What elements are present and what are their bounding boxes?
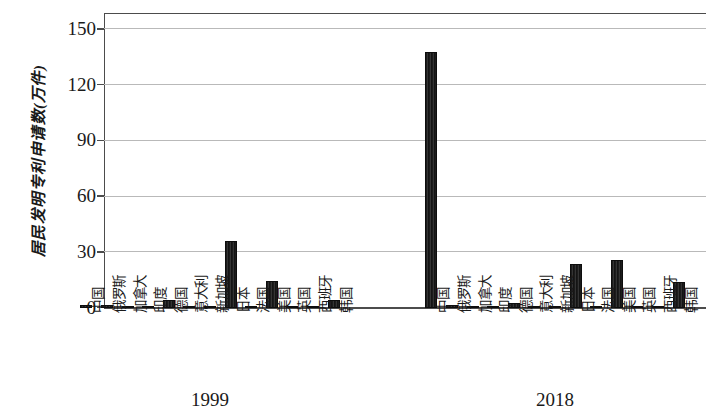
x-axis-category-label: 法国 — [602, 217, 616, 313]
x-axis-category-label: 加拿大 — [134, 217, 148, 313]
bar-chart: 居民发明专利申请数(万件) 0306090120150 中国俄罗斯加拿大印度德国… — [0, 0, 714, 416]
x-axis-category-label: 俄罗斯 — [458, 217, 472, 313]
x-axis-group-label: 2018 — [495, 390, 615, 409]
x-axis-category-label: 中国 — [437, 217, 451, 313]
x-axis-category-label: 西班牙 — [664, 217, 678, 313]
x-axis-category-label: 日本 — [237, 217, 251, 313]
x-axis-category-label: 美国 — [623, 217, 637, 313]
x-axis-category-label: 印度 — [154, 217, 168, 313]
x-axis-category-label: 韩国 — [340, 217, 354, 313]
x-axis-category-label: 日本 — [582, 217, 596, 313]
bars-layer — [0, 0, 714, 416]
x-axis-category-label: 美国 — [278, 217, 292, 313]
x-axis-category-label: 英国 — [298, 217, 312, 313]
x-axis-category-label: 印度 — [499, 217, 513, 313]
bar — [425, 52, 437, 308]
x-axis-category-label: 新加坡 — [216, 217, 230, 313]
x-axis-category-label: 中国 — [92, 217, 106, 313]
x-axis-category-label: 新加坡 — [561, 217, 575, 313]
x-axis-category-label: 意大利 — [195, 217, 209, 313]
x-axis-category-label: 英国 — [643, 217, 657, 313]
x-axis-category-label: 德国 — [175, 217, 189, 313]
x-axis-category-label: 加拿大 — [479, 217, 493, 313]
x-axis-category-label: 西班牙 — [319, 217, 333, 313]
x-axis-category-label: 德国 — [520, 217, 534, 313]
x-axis-category-label: 俄罗斯 — [113, 217, 127, 313]
x-axis-category-label: 韩国 — [685, 217, 699, 313]
x-axis-category-label: 意大利 — [540, 217, 554, 313]
x-axis-category-label: 法国 — [257, 217, 271, 313]
x-axis-group-label: 1999 — [150, 390, 270, 409]
